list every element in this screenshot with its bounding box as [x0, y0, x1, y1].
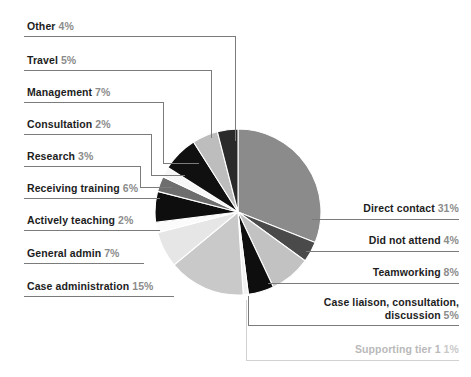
label-teamworking: Teamworking 8%	[373, 266, 459, 278]
label-research-pct: 3%	[78, 150, 93, 162]
leader-supporting-tier-1-h	[246, 360, 459, 361]
label-case-liaison: Case liaison, consultation, discussion 5…	[299, 296, 459, 321]
leader-travel-v	[211, 70, 212, 138]
leader-receiving-training-h	[24, 198, 160, 199]
label-actively-teaching-pct: 2%	[118, 214, 133, 226]
label-teamworking-pct: 8%	[444, 266, 459, 278]
leader-research-h	[24, 166, 141, 167]
label-case-administration-name: Case administration	[27, 280, 129, 292]
label-other-name: Other	[27, 20, 56, 32]
leader-case-administration-h	[24, 296, 174, 297]
label-consultation: Consultation 2%	[27, 118, 111, 130]
leader-actively-teaching-h	[24, 230, 160, 231]
label-teamworking-name: Teamworking	[373, 266, 441, 278]
leader-management-h2	[163, 163, 199, 164]
pie-chart-figure: Direct contact 31%Did not attend 4%Teamw…	[0, 0, 471, 377]
pie-chart: Direct contact 31%Did not attend 4%Teamw…	[154, 128, 322, 296]
label-general-admin-pct: 7%	[104, 247, 119, 259]
label-supporting-tier-1-name: Supporting tier 1	[355, 343, 441, 355]
label-supporting-tier-1: Supporting tier 1 1%	[355, 343, 459, 355]
label-case-liaison-pct: 5%	[444, 309, 459, 321]
label-general-admin: General admin 7%	[27, 247, 120, 259]
label-receiving-training-pct: 6%	[123, 182, 138, 194]
label-actively-teaching-name: Actively teaching	[27, 214, 115, 226]
label-consultation-name: Consultation	[27, 118, 92, 130]
label-general-admin-name: General admin	[27, 247, 101, 259]
label-supporting-tier-1-pct: 1%	[444, 343, 459, 355]
label-direct-contact: Direct contact 31%	[363, 202, 459, 214]
pie-chart-svg: Direct contact 31%Did not attend 4%Teamw…	[154, 128, 322, 296]
leader-other-v	[235, 36, 236, 141]
label-direct-contact-name: Direct contact	[363, 202, 434, 214]
leader-other-h	[24, 36, 236, 37]
leader-general-admin-h	[24, 263, 144, 264]
label-management-name: Management	[27, 86, 92, 98]
leader-travel-h	[24, 70, 212, 71]
leader-case-liaison-h	[248, 325, 459, 326]
leader-consultation-v	[151, 134, 152, 176]
label-management: Management 7%	[27, 86, 111, 98]
label-travel-name: Travel	[27, 54, 58, 66]
label-other: Other 4%	[27, 20, 74, 32]
label-case-administration: Case administration 15%	[27, 280, 154, 292]
label-did-not-attend: Did not attend 4%	[369, 234, 459, 246]
label-did-not-attend-name: Did not attend	[369, 234, 441, 246]
label-other-pct: 4%	[58, 20, 73, 32]
label-management-pct: 7%	[95, 86, 110, 98]
leader-teamworking-h	[268, 283, 459, 284]
leader-management-h	[24, 102, 164, 103]
leader-did-not-attend-h	[306, 251, 459, 252]
leader-supporting-tier-1-v	[246, 300, 247, 360]
leader-consultation-h2	[151, 175, 185, 176]
leader-management-v	[163, 102, 164, 164]
label-receiving-training: Receiving training 6%	[27, 182, 138, 194]
label-research-name: Research	[27, 150, 75, 162]
label-research: Research 3%	[27, 150, 93, 162]
leader-research-h2	[140, 187, 172, 188]
label-travel-pct: 5%	[61, 54, 76, 66]
label-did-not-attend-pct: 4%	[444, 234, 459, 246]
label-receiving-training-name: Receiving training	[27, 182, 120, 194]
label-case-administration-pct: 15%	[132, 280, 153, 292]
label-case-liaison-name: Case liaison, consultation, discussion	[324, 296, 459, 321]
label-consultation-pct: 2%	[95, 118, 110, 130]
label-actively-teaching: Actively teaching 2%	[27, 214, 133, 226]
leader-case-liaison-v	[248, 296, 249, 325]
leader-research-v	[140, 166, 141, 188]
leader-consultation-h	[24, 134, 152, 135]
leader-direct-contact-h	[312, 219, 459, 220]
label-direct-contact-pct: 31%	[438, 202, 459, 214]
label-travel: Travel 5%	[27, 54, 76, 66]
